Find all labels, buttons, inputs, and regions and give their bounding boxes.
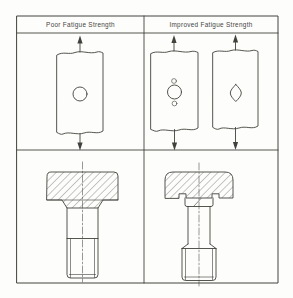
improved-plate-relief-holes: [151, 35, 198, 151]
tension-arrow-down-icon: [77, 143, 82, 151]
tension-arrow-down-icon: [172, 143, 177, 151]
column-header-improved: Improved Fatigue Strength: [169, 21, 252, 29]
figure-ink: Poor Fatigue Strength Improved Fatigue S…: [17, 16, 278, 286]
center-hole: [168, 85, 182, 99]
poor-plate-with-hole: [57, 36, 103, 151]
poor-bolt: [47, 162, 118, 282]
plate-outline: [57, 52, 103, 135]
relief-hole-bottom: [172, 101, 177, 106]
tension-arrow-up-icon: [77, 36, 82, 44]
center-hole: [73, 87, 87, 101]
bolt-head-section: [165, 172, 233, 198]
outer-border: [17, 16, 278, 283]
collar-fillet-mark: [194, 199, 201, 207]
fatigue-strength-figure: Poor Fatigue Strength Improved Fatigue S…: [0, 0, 293, 298]
plate-outline: [213, 50, 258, 129]
shank-flare-left: [182, 244, 188, 249]
tension-arrow-up-icon: [171, 35, 176, 43]
column-header-poor: Poor Fatigue Strength: [46, 21, 115, 29]
tension-arrow-down-icon: [233, 142, 238, 150]
figure-canvas: Poor Fatigue Strength Improved Fatigue S…: [0, 0, 293, 298]
improved-bolt: [165, 163, 233, 286]
relief-hole-top: [172, 79, 177, 84]
figure-grid: [17, 16, 278, 283]
tension-arrow-up-icon: [233, 35, 238, 43]
improved-plate-diamond-hole: [213, 35, 258, 151]
diamond-hole: [230, 85, 241, 102]
plate-outline: [151, 51, 198, 131]
shank-flare-right: [210, 244, 216, 249]
bolt-head-section: [47, 172, 118, 208]
